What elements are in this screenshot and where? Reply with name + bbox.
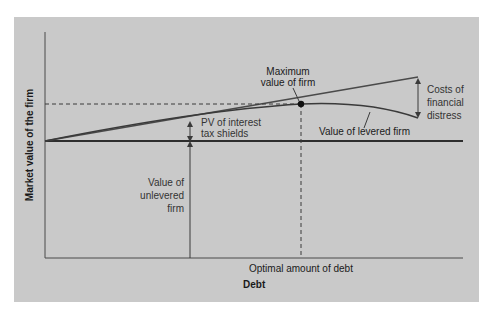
diagram-canvas xyxy=(0,0,495,313)
max-value-label-line2: value of firm xyxy=(238,77,338,88)
costs-label-line1: Costs of xyxy=(427,83,464,96)
max-value-label: Maximum value of firm xyxy=(238,66,338,88)
pv-tax-shields-label: PV of interest tax shields xyxy=(201,117,261,139)
max-value-label-line1: Maximum xyxy=(238,66,338,77)
x-axis-label: Debt xyxy=(243,279,265,290)
pv-label-line1: PV of interest xyxy=(201,117,261,128)
costs-label-line2: financial xyxy=(427,96,464,109)
levered-value-label: Value of levered firm xyxy=(319,126,410,137)
unlevered-label-line1: Value of xyxy=(120,176,184,189)
costs-label-line3: distress xyxy=(427,109,464,122)
unlevered-label-line2: unlevered xyxy=(120,189,184,202)
y-axis-label: Market value of the firm xyxy=(24,89,35,201)
optimal-debt-label: Optimal amount of debt xyxy=(249,263,353,274)
unlevered-label-line3: firm xyxy=(120,202,184,215)
max-value-point xyxy=(298,101,304,107)
pv-label-line2: tax shields xyxy=(201,128,261,139)
unlevered-value-label: Value of unlevered firm xyxy=(120,176,184,215)
financial-distress-label: Costs of financial distress xyxy=(427,83,464,122)
